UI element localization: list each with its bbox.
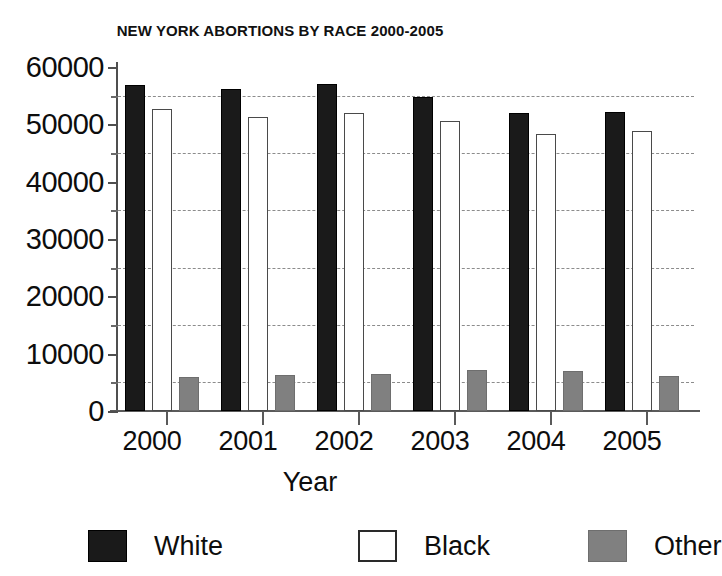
y-axis-tick-label: 20000 — [0, 282, 104, 311]
legend-label: Other — [654, 533, 722, 560]
plot-area — [118, 67, 694, 411]
y-axis-tick-major — [108, 124, 118, 126]
bar-black-2003 — [440, 121, 460, 411]
legend-label: White — [154, 533, 223, 560]
y-axis-tick-label: 40000 — [0, 167, 104, 196]
x-axis-title: Year — [0, 467, 620, 498]
legend-item-other[interactable]: Other — [588, 525, 722, 567]
gridline — [118, 96, 694, 97]
bar-white-2002 — [317, 84, 337, 411]
y-axis-tick-major — [108, 354, 118, 356]
bar-other-2002 — [371, 374, 391, 411]
legend-item-black[interactable]: Black — [358, 525, 490, 567]
y-axis-tick-major — [108, 296, 118, 298]
bar-other-2003 — [467, 370, 487, 411]
y-axis-tick-minor — [111, 210, 118, 212]
y-axis-tick-minor — [111, 153, 118, 155]
bar-black-2000 — [152, 109, 172, 411]
solid-gray-swatch — [588, 530, 627, 562]
bar-other-2001 — [275, 375, 295, 411]
bar-black-2004 — [536, 134, 556, 411]
y-axis-tick-minor — [111, 382, 118, 384]
y-axis-tick-major — [108, 239, 118, 241]
y-axis-tick-label: 0 — [0, 397, 104, 426]
legend-item-white[interactable]: White — [88, 525, 223, 567]
chart-title: NEW YORK ABORTIONS BY RACE 2000-2005 — [0, 22, 560, 39]
y-axis-tick-label: 30000 — [0, 225, 104, 254]
bar-white-2005 — [605, 112, 625, 411]
bar-white-2000 — [125, 85, 145, 411]
y-axis-tick-label: 50000 — [0, 110, 104, 139]
bar-white-2004 — [509, 113, 529, 411]
bar-white-2003 — [413, 97, 433, 411]
legend-label: Black — [424, 533, 490, 560]
bar-other-2000 — [179, 377, 199, 411]
bar-other-2005 — [659, 376, 679, 411]
x-axis-tick — [454, 411, 456, 425]
y-axis-tick-minor — [111, 325, 118, 327]
y-axis-tick-major — [108, 182, 118, 184]
y-axis-tick-major — [108, 67, 118, 69]
y-axis-tick-minor — [111, 268, 118, 270]
solid-black-swatch — [88, 530, 127, 562]
bar-white-2001 — [221, 89, 241, 411]
x-axis-tick — [646, 411, 648, 425]
x-axis-tick — [166, 411, 168, 425]
y-axis-tick-minor — [111, 96, 118, 98]
x-axis-tick — [550, 411, 552, 425]
bar-other-2004 — [563, 371, 583, 411]
hollow-white-swatch — [358, 530, 397, 562]
y-axis-tick-label: 60000 — [0, 53, 104, 82]
chart-legend: WhiteBlackOther — [88, 525, 688, 571]
x-axis-tick — [262, 411, 264, 425]
y-axis-tick-label: 10000 — [0, 339, 104, 368]
x-axis-tick — [358, 411, 360, 425]
y-axis-tick-major — [108, 411, 118, 413]
bar-black-2001 — [248, 117, 268, 411]
x-axis-tick-label: 2005 — [572, 428, 692, 455]
bar-black-2005 — [632, 131, 652, 411]
bar-black-2002 — [344, 113, 364, 411]
